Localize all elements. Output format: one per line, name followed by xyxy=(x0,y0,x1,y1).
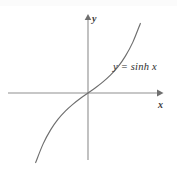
y-axis-arrowhead xyxy=(85,14,92,20)
hyperbolic-sine-graph-figure: y x y = sinh x xyxy=(0,0,177,170)
y-axis-label: y xyxy=(92,14,96,24)
x-axis-arrowhead xyxy=(157,90,164,97)
axes-group xyxy=(8,14,164,160)
curve-equation-label: y = sinh x xyxy=(113,62,157,73)
plot-canvas xyxy=(0,0,177,170)
x-axis-label: x xyxy=(158,100,163,110)
